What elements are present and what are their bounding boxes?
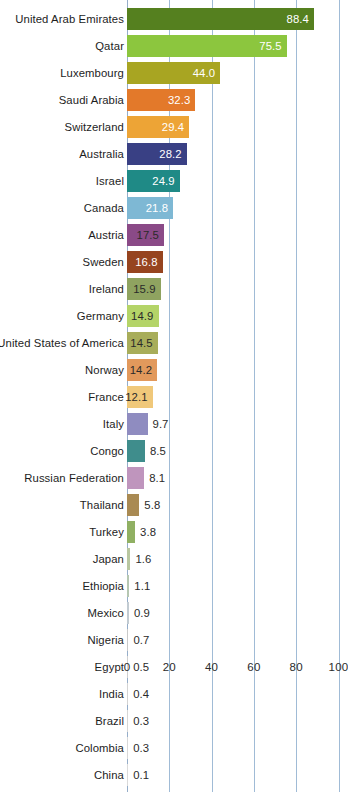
bar: 8.1 [127,467,144,489]
bar: 88.4 [127,8,314,30]
category-label: China [94,764,124,786]
category-label: Colombia [75,737,124,759]
bar: 1.1 [127,575,129,597]
bar-value-label: 28.2 [159,143,181,165]
bar: 16.8 [127,251,163,273]
bar-value-label: 17.5 [137,224,159,246]
bar-row: Sweden16.8 [0,251,345,273]
bar: 24.9 [127,170,180,192]
bar: 14.2 [127,359,157,381]
bar: 15.9 [127,278,161,300]
bar: 17.5 [127,224,164,246]
bar-row: India0.4 [0,683,345,705]
bar-value-label: 8.1 [149,467,165,489]
category-label: Saudi Arabia [59,89,124,111]
x-tick-label-80: 80 [290,661,303,673]
category-label: India [99,683,124,705]
bar: 3.8 [127,521,135,543]
bar-value-label: 0.1 [133,764,149,786]
x-tick-label-0: 0 [124,661,131,673]
bar: 0.3 [127,737,128,759]
bar-row: Nigeria0.7 [0,629,345,651]
bar-row: Brazil0.3 [0,710,345,732]
bar-value-label: 29.4 [162,116,184,138]
bar-value-label: 1.1 [134,575,150,597]
category-label: Japan [93,548,124,570]
bar-value-label: 14.9 [131,305,153,327]
category-label: Germany [77,305,124,327]
bar-row: Norway14.2 [0,359,345,381]
bar: 0.9 [127,602,129,624]
category-label: Ireland [89,278,124,300]
bar: 0.7 [127,629,128,651]
category-label: Italy [103,413,124,435]
bar-row: Italy9.7 [0,413,345,435]
bar-row: Colombia0.3 [0,737,345,759]
bar-row: Australia28.2 [0,143,345,165]
category-label: Russian Federation [24,467,124,489]
bar-row: United Arab Emirates88.4 [0,8,345,30]
category-label: Sweden [83,251,124,273]
category-label: Australia [79,143,124,165]
bar-value-label: 0.3 [133,710,149,732]
bar-value-label: 16.8 [135,251,157,273]
bar: 44.0 [127,62,220,84]
category-label: United States of America [0,332,124,354]
category-label: Turkey [89,521,124,543]
bar: 21.8 [127,197,173,219]
bar: 8.5 [127,440,145,462]
category-label: Luxembourg [60,62,124,84]
bar-row: Israel24.9 [0,170,345,192]
bar-value-label: 3.8 [140,521,156,543]
bar-value-label: 0.9 [134,602,150,624]
bar-value-label: 0.3 [133,737,149,759]
bar-value-label: 1.6 [135,548,151,570]
x-tick-label-100: 100 [329,661,348,673]
category-label: Qatar [95,35,124,57]
bar-row: France12.1 [0,386,345,408]
bar-value-label: 8.5 [150,440,166,462]
bar: 0.4 [127,683,128,705]
x-axis-tick-labels: 020406080100 [0,661,345,681]
x-tick-label-20: 20 [163,661,176,673]
bar-value-label: 0.4 [133,683,149,705]
bar: 0.1 [127,764,128,786]
bar-row: Austria17.5 [0,224,345,246]
category-label: France [88,386,124,408]
bar-row: Ethiopia1.1 [0,575,345,597]
bar-value-label: 0.7 [133,629,149,651]
category-label: Nigeria [88,629,125,651]
bar-row: Congo8.5 [0,440,345,462]
bar-row: China0.1 [0,764,345,786]
bar-row: Qatar75.5 [0,35,345,57]
category-label: Thailand [80,494,124,516]
bar-row: Switzerland29.4 [0,116,345,138]
bar: 5.8 [127,494,139,516]
bar-row: Turkey3.8 [0,521,345,543]
category-label: Austria [88,224,124,246]
category-label: Switzerland [65,116,125,138]
bar: 9.7 [127,413,148,435]
bar-row: Saudi Arabia32.3 [0,89,345,111]
bar-row: Japan1.6 [0,548,345,570]
bar-value-label: 9.7 [153,413,169,435]
category-label: Brazil [95,710,124,732]
category-label: Israel [96,170,124,192]
bar-value-label: 14.5 [130,332,152,354]
category-label: Norway [85,359,124,381]
category-label: Ethiopia [82,575,124,597]
bar: 29.4 [127,116,189,138]
bar-value-label: 21.8 [146,197,168,219]
bar-row: Russian Federation8.1 [0,467,345,489]
bar-value-label: 12.1 [125,386,147,408]
category-label: Mexico [88,602,124,624]
category-label: United Arab Emirates [15,8,124,30]
bar-value-label: 75.5 [259,35,281,57]
category-label: Canada [84,197,124,219]
bar-row: Germany14.9 [0,305,345,327]
bar-row: Mexico0.9 [0,602,345,624]
bar: 14.5 [127,332,158,354]
category-label: Congo [90,440,124,462]
bar-value-label: 32.3 [168,89,190,111]
